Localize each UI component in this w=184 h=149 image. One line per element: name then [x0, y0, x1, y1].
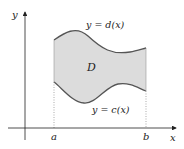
b-label: b — [143, 131, 149, 142]
region-label: D — [86, 61, 96, 74]
bottom-curve-label: y = c(x) — [91, 104, 130, 115]
top-curve-label: y = d(x) — [85, 19, 125, 30]
region-d — [54, 31, 146, 103]
y-axis-label: y — [11, 9, 18, 20]
region-diagram: y x a b D y = d(x) y = c(x) — [0, 0, 184, 149]
a-label: a — [51, 131, 57, 142]
x-axis-label: x — [170, 132, 176, 143]
